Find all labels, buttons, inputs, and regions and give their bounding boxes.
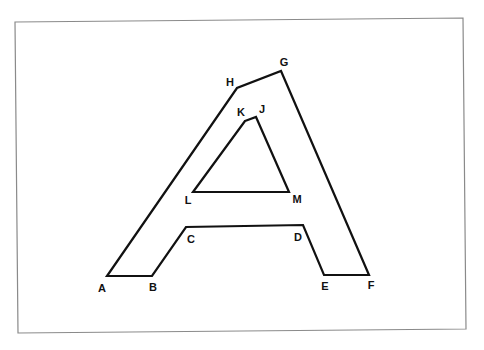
vertex-label-j: J bbox=[259, 103, 265, 115]
vertex-label-c: C bbox=[187, 233, 195, 245]
vertex-label-h: H bbox=[226, 76, 234, 88]
vertex-label-k: K bbox=[237, 106, 245, 118]
vertex-label-e: E bbox=[321, 280, 328, 292]
inner-triangle-polygon bbox=[193, 117, 289, 192]
vertex-label-l: L bbox=[185, 194, 192, 206]
vertex-label-d: D bbox=[294, 231, 302, 243]
outer-outline-polygon bbox=[107, 71, 369, 276]
letter-a-diagram: ABCDEFGHJKLM bbox=[0, 0, 484, 350]
vertex-label-m: M bbox=[292, 193, 301, 205]
vertex-label-g: G bbox=[280, 56, 289, 68]
diagram-frame bbox=[15, 18, 466, 333]
vertex-label-f: F bbox=[368, 279, 375, 291]
vertex-label-a: A bbox=[98, 282, 106, 294]
vertex-labels: ABCDEFGHJKLM bbox=[98, 56, 375, 294]
vertex-label-b: B bbox=[149, 281, 157, 293]
